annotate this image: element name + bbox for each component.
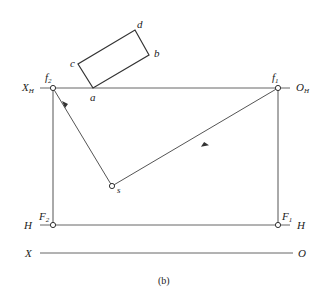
label-x: X (25, 248, 32, 259)
label-xh: XH (22, 82, 34, 95)
point-F2 (50, 222, 55, 227)
sight-line-s-f1 (112, 88, 278, 186)
label-f1: f1 (272, 72, 279, 85)
label-s: s (117, 186, 121, 195)
label-F2: F2 (39, 211, 49, 224)
point-s (109, 183, 114, 188)
label-c: c (70, 58, 75, 69)
arrow-icon (201, 142, 209, 147)
point-f2 (50, 85, 55, 90)
label-d: d (137, 19, 143, 30)
label-F1: F1 (282, 211, 292, 224)
label-a: a (90, 92, 96, 103)
diagram-lines (0, 0, 322, 291)
point-F1 (275, 222, 280, 227)
label-oh: OH (296, 82, 309, 95)
point-f1 (275, 85, 280, 90)
label-h-right: H (297, 220, 305, 231)
label-o: O (298, 248, 306, 259)
label-b: b (154, 48, 160, 59)
label-f2: f2 (45, 72, 52, 85)
sight-line-s-f2 (53, 88, 112, 186)
label-h-left: H (24, 220, 32, 231)
rectangle-abcd (78, 30, 149, 88)
figure-caption: (b) (158, 275, 170, 286)
perspective-diagram: XH OH f2 f1 a b c d s F2 F1 H H X O (b) (0, 0, 322, 291)
